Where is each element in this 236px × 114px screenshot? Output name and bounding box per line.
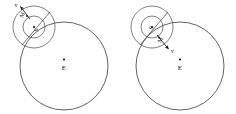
velocity-label-right: v <box>171 48 174 54</box>
earth-dot-left <box>63 58 65 60</box>
earth-label-right: E <box>178 64 182 72</box>
velocity-label-left: v <box>15 2 18 8</box>
moon-label-left: M <box>18 11 26 19</box>
panel-right: v M S E <box>131 6 224 110</box>
sun-label-right: S <box>148 25 155 31</box>
orbital-diagram-figure: v M S E v M S E <box>0 0 236 114</box>
earth-label-left: E <box>62 64 66 72</box>
diagram-canvas: v M S E v M S E <box>0 0 236 114</box>
earth-dot-right <box>179 58 181 60</box>
panel-left: v M S E <box>13 2 108 110</box>
